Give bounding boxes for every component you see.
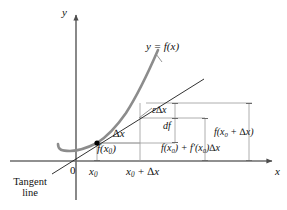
tangent-label-line2: line (22, 187, 38, 198)
measure-label-linear-approximation: f(x0) + f′(x0)∆x (161, 143, 220, 154)
x-tick-label-x0: x0 (89, 166, 98, 179)
tangent-line-label: Tangentline (4, 176, 56, 198)
curve-equation-label: y = f(x) (146, 41, 179, 52)
fx0dx-pre: f(x (214, 126, 225, 137)
function-curve (58, 50, 158, 151)
linear-c: )∆x (206, 142, 220, 153)
measure-label-fx0: f(x0) (97, 143, 116, 156)
fx0-pre: f(x (97, 142, 109, 154)
tangent-line (52, 79, 204, 174)
tangent-label-line1: Tangent (13, 176, 47, 187)
measure-label-delta-x: ∆x (113, 128, 125, 139)
measure-label-fx0-plus-delta-x: f(x0 + ∆x) (214, 127, 253, 138)
linear-a: f(x (161, 142, 172, 153)
differential-diagram-figure: y x y = f(x) 0 x0 x0 + ∆x Tangentline f(… (0, 0, 287, 210)
measure-label-df: df (163, 121, 171, 131)
x0-subscript: 0 (94, 171, 98, 179)
fx0-post: ) (112, 142, 116, 154)
fx0dx-post: + ∆x) (228, 126, 254, 137)
origin-label: 0 (70, 165, 76, 176)
x-axis-label: x (275, 166, 280, 177)
x-tick-label-x0-plus-delta-x: x0 + ∆x (126, 166, 159, 179)
measure-label-epsilon-delta-x: ε∆x (152, 105, 167, 115)
y-axis-label: y (62, 7, 67, 18)
linear-b: ) + f′(x (175, 142, 203, 153)
x0dx-suffix: + ∆x (135, 165, 160, 177)
